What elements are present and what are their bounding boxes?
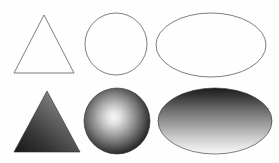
shapes-figure-svg xyxy=(0,0,279,163)
shapes-figure-canvas: Geometric shapes: outline and shaded var… xyxy=(0,0,279,163)
shaded-ellipse-shape xyxy=(158,88,272,154)
shaded-sphere-shape xyxy=(84,88,150,154)
